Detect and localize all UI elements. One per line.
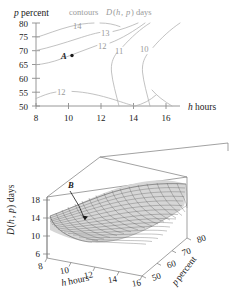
point-label-a: A [60, 51, 67, 61]
figure-container: p percent contours D ( h , p ) days [0, 0, 237, 288]
ztick-18: 18 [31, 195, 41, 205]
ztick-14: 14 [31, 213, 41, 223]
surface-xtick-14: 14 [107, 274, 118, 286]
surface-zaxis [43, 197, 50, 258]
surface-plot-panel: 6 10 14 18 D ( h , p ) days [0, 140, 237, 288]
contour-curve-12b [110, 23, 145, 43]
contour-title-fn: D [105, 7, 113, 17]
xtick-12: 12 [97, 113, 106, 123]
xtick-16: 16 [162, 113, 172, 123]
surface-ytick-80: 80 [196, 232, 208, 244]
contour-xlabel-text: hours [195, 102, 216, 112]
ytick-75: 75 [19, 32, 29, 42]
contour-plot-svg: p percent contours D ( h , p ) days [0, 0, 237, 140]
contour-title-p: p [125, 7, 130, 17]
point-label-b: B [67, 180, 74, 190]
ytick-70: 70 [19, 46, 29, 56]
ztick-6: 6 [36, 249, 41, 259]
ytick-65: 65 [19, 60, 29, 70]
surface-ylabel-text: percent [173, 254, 198, 282]
surface-ytick-60: 60 [166, 258, 178, 270]
surface-xtick-8: 8 [37, 261, 44, 272]
contour-title-prefix: contours [69, 7, 98, 17]
surface-zlabel-group: D ( h , p ) days [6, 184, 17, 236]
surface-htick-labels: 8 10 12 14 16 [37, 261, 142, 288]
contour-xlabel-symbol: h [188, 102, 193, 112]
surface-zlabel-fn: D [6, 228, 16, 236]
contour-label-10: 10 [140, 44, 149, 54]
surface-zlabel-comma: , [6, 216, 16, 218]
contour-curve-14b [100, 23, 120, 27]
contour-xtick-labels: 8 10 12 14 16 [34, 113, 171, 123]
contour-ylabel-text: percent [21, 8, 49, 18]
contour-plot-panel: p percent contours D ( h , p ) days [0, 0, 237, 140]
ytick-55: 55 [19, 88, 29, 98]
xtick-10: 10 [64, 113, 74, 123]
contour-ytick-labels: 80 75 70 65 60 55 50 [19, 19, 29, 112]
ytick-80: 80 [19, 19, 29, 29]
contour-ylabel-symbol: p [13, 8, 19, 18]
surface-zlabel-paren2: ) [6, 205, 17, 208]
contour-curve-11a [111, 53, 119, 107]
contour-title-paren2: ) [131, 7, 134, 17]
xtick-14: 14 [129, 113, 139, 123]
surface-ytick-50: 50 [151, 270, 163, 282]
contour-curve-12low-a [36, 92, 56, 99]
contour-curve-low-3 [152, 90, 172, 106]
contour-label-13: 13 [101, 28, 110, 38]
surface-xlabel-text: hours [67, 273, 90, 287]
surface-xtick-10: 10 [59, 265, 70, 277]
contour-curve-14 [36, 23, 94, 38]
contour-curve-low-2 [135, 95, 156, 106]
contour-curve-10b [153, 23, 180, 48]
contour-label-11: 11 [115, 46, 123, 56]
ytick-60: 60 [19, 74, 29, 84]
contour-title-days: days [136, 7, 152, 17]
surface-plot-svg: 6 10 14 18 D ( h , p ) days [0, 140, 237, 288]
contour-label-14: 14 [73, 21, 82, 31]
ytick-50: 50 [19, 102, 29, 112]
surface-xlabel-symbol: h [60, 277, 67, 288]
surface-zlabel-h: h [6, 219, 16, 224]
contour-curve-12low-b [72, 91, 135, 106]
ztick-10: 10 [31, 231, 41, 241]
contour-label-12: 12 [98, 41, 107, 51]
surface-ztick-labels: 6 10 14 18 [31, 195, 41, 259]
contour-title-h: h [116, 7, 120, 17]
contour-label-12-lower: 12 [57, 87, 66, 97]
point-marker-a [70, 54, 73, 57]
contour-curve-10a [142, 55, 150, 107]
surface-zlabel-days: days [6, 184, 16, 202]
contour-title-comma: , [121, 7, 123, 17]
xtick-8: 8 [34, 113, 39, 123]
